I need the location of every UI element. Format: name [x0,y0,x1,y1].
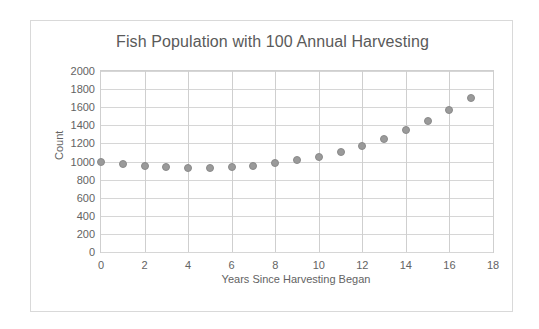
y-tick-label: 2000 [71,65,95,77]
gridline-vertical [362,71,363,252]
data-point [358,142,366,150]
data-point [228,163,236,171]
gridline-vertical [232,71,233,252]
x-axis-title: Years Since Harvesting Began [100,273,492,285]
y-tick-label: 1600 [71,101,95,113]
gridline-vertical [449,71,450,252]
data-point [271,159,279,167]
gridline-horizontal [101,180,493,181]
gridline-horizontal [101,143,493,144]
gridline-horizontal [101,71,493,72]
y-tick-label: 0 [89,246,95,258]
gridline-horizontal [101,216,493,217]
y-tick-label: 1400 [71,119,95,131]
x-tick-label: 16 [443,259,455,271]
x-tick-label: 12 [356,259,368,271]
data-point [337,148,345,156]
y-axis-title: Count [53,131,65,160]
y-tick-label: 1800 [71,83,95,95]
gridline-vertical [319,71,320,252]
plot-area: 0200400600800100012001400160018002000 02… [100,70,494,253]
gridline-horizontal [101,107,493,108]
x-tick-label: 0 [98,259,104,271]
gridline-vertical [406,71,407,252]
data-point [424,117,432,125]
data-point [162,163,170,171]
y-tick-label: 600 [77,192,95,204]
x-tick-label: 14 [400,259,412,271]
y-tick-label: 400 [77,210,95,222]
y-tick-label: 1000 [71,156,95,168]
gridline-horizontal [101,89,493,90]
data-point [119,160,127,168]
data-point [467,94,475,102]
data-point [293,156,301,164]
x-tick-label: 8 [272,259,278,271]
x-tick-label: 4 [185,259,191,271]
gridline-horizontal [101,198,493,199]
chart-container: Fish Population with 100 Annual Harvesti… [30,20,513,312]
y-tick-label: 1200 [71,137,95,149]
chart-title: Fish Population with 100 Annual Harvesti… [31,33,514,51]
y-tick-label: 200 [77,228,95,240]
y-tick-label: 800 [77,174,95,186]
data-point [402,126,410,134]
data-point [315,153,323,161]
x-tick-label: 6 [229,259,235,271]
gridline-vertical [188,71,189,252]
x-tick-label: 18 [487,259,499,271]
x-tick-label: 10 [313,259,325,271]
data-point [97,158,105,166]
gridline-horizontal [101,234,493,235]
data-point [380,135,388,143]
data-point [445,106,453,114]
data-point [141,162,149,170]
data-point [249,162,257,170]
x-tick-label: 2 [141,259,147,271]
gridline-horizontal [101,252,493,253]
data-point [206,164,214,172]
data-point [184,164,192,172]
gridline-horizontal [101,125,493,126]
